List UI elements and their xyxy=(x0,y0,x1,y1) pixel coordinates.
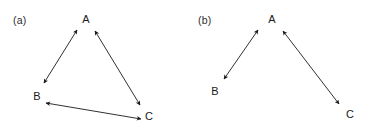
panel-b-caption: (b) xyxy=(198,15,211,26)
edge-b-a xyxy=(224,30,258,79)
panel-a-caption: (a) xyxy=(13,15,26,26)
node-label-b-B: B xyxy=(210,86,220,97)
node-label-b-C: C xyxy=(345,109,355,120)
figure-canvas: (a) A B C (b) A B C xyxy=(0,0,372,134)
edge-a-c xyxy=(283,31,339,104)
node-label-a-A: A xyxy=(81,14,91,25)
node-label-a-C: C xyxy=(144,111,154,122)
edge-b-c xyxy=(46,103,141,119)
node-label-b-A: A xyxy=(267,14,277,25)
panel-b: (b) A B C xyxy=(186,0,372,134)
node-label-a-B: B xyxy=(32,91,42,102)
edge-a-c xyxy=(95,31,140,105)
panel-a-graph xyxy=(0,0,186,134)
edge-b-a xyxy=(44,30,77,83)
panel-a: (a) A B C xyxy=(0,0,186,134)
